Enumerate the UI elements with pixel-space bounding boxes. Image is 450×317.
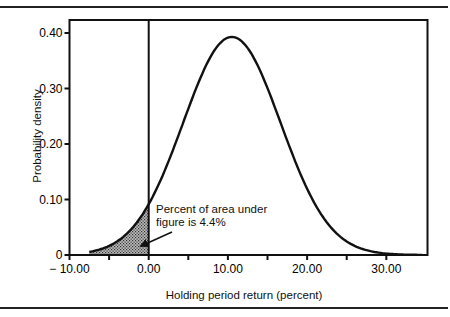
annotation-line-1: Percent of area under — [156, 203, 267, 216]
x-tick-label: 0.00 — [137, 262, 161, 276]
x-tick-label: 20.00 — [292, 262, 322, 276]
y-tick-label: 0 — [56, 248, 63, 262]
x-tick-label: 30.00 — [371, 262, 401, 276]
y-axis-ticks: 00.100.200.300.40 — [39, 26, 69, 262]
annotation-line-2: figure is 4.4% — [156, 216, 267, 229]
shaded-tail-area — [89, 204, 148, 255]
y-tick-label: 0.40 — [39, 26, 63, 40]
x-tick-label: 10.00 — [213, 262, 243, 276]
x-axis-ticks: − 10.000.0010.0020.0030.00 — [49, 255, 401, 276]
x-tick-label: − 10.00 — [49, 262, 90, 276]
x-axis-label: Holding period return (percent) — [0, 289, 450, 301]
probability-density-chart: − 10.000.0010.0020.0030.00 00.100.200.30… — [0, 0, 450, 317]
area-annotation: Percent of area under figure is 4.4% — [156, 203, 267, 229]
y-axis-label: Probability density — [31, 71, 43, 201]
